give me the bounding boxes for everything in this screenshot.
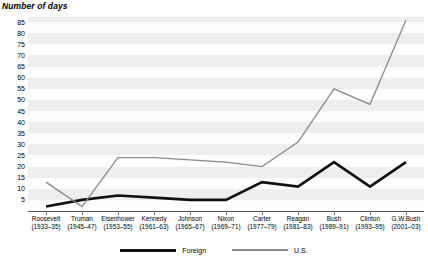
legend-swatch-foreign-icon — [120, 249, 176, 252]
series-line-us — [46, 20, 406, 207]
legend-label-foreign: Foreign — [182, 247, 206, 254]
chart-container: Number of days 8580757065605550454035302… — [0, 0, 428, 261]
series-line-foreign — [46, 162, 406, 206]
legend-item-us: U.S. — [232, 247, 308, 254]
legend-item-foreign: Foreign — [120, 247, 206, 254]
legend-label-us: U.S. — [294, 247, 308, 254]
legend-swatch-us-icon — [232, 249, 288, 250]
series-lines — [0, 0, 428, 261]
chart-legend: Foreign U.S. — [0, 243, 428, 257]
